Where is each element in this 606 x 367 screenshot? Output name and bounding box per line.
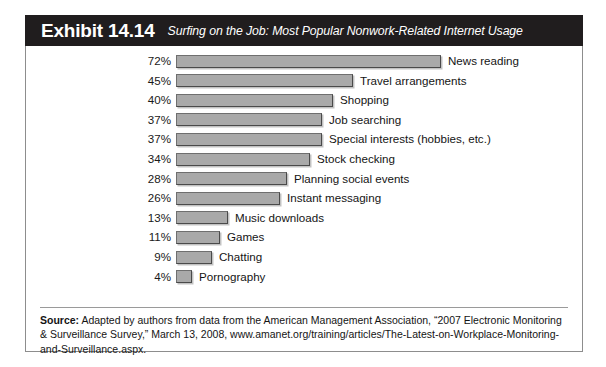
chart-row: 72%News reading — [26, 53, 582, 69]
bar-category-label: Special interests (hobbies, etc.) — [329, 131, 491, 147]
source-label: Source: — [40, 314, 79, 326]
bar — [176, 192, 280, 205]
chart-row: 34%Stock checking — [26, 151, 582, 167]
bar-category-label: Shopping — [340, 92, 389, 108]
chart-row: 4%Pornography — [26, 269, 582, 285]
exhibit-number-label: Exhibit 14.14 — [41, 20, 155, 42]
chart-row: 11%Games — [26, 229, 582, 245]
bar-category-label: Job searching — [329, 112, 401, 128]
bar-category-label: Instant messaging — [287, 190, 381, 206]
bar-category-label: Pornography — [199, 269, 265, 285]
bar — [176, 211, 228, 224]
bar-value-label: 9% — [86, 249, 171, 265]
bar-category-label: News reading — [448, 53, 519, 69]
chart-row: 37%Special interests (hobbies, etc.) — [26, 131, 582, 147]
bar-category-label: Stock checking — [317, 151, 395, 167]
bar-value-label: 40% — [86, 92, 171, 108]
bar-value-label: 34% — [86, 151, 171, 167]
bar — [176, 55, 441, 68]
chart-row: 40%Shopping — [26, 92, 582, 108]
chart-row: 13%Music downloads — [26, 210, 582, 226]
bar-value-label: 13% — [86, 210, 171, 226]
bar-value-label: 72% — [86, 53, 171, 69]
bar — [176, 153, 310, 166]
bar-value-label: 28% — [86, 171, 171, 187]
bar — [176, 113, 322, 126]
bar-chart: 72%News reading45%Travel arrangements40%… — [26, 47, 582, 300]
bar — [176, 231, 220, 244]
chart-row: 26%Instant messaging — [26, 190, 582, 206]
bar-category-label: Planning social events — [294, 171, 409, 187]
bar-category-label: Chatting — [219, 249, 262, 265]
exhibit-subtitle: Surfing on the Job: Most Popular Nonwork… — [168, 24, 523, 38]
exhibit-figure: Exhibit 14.14 Surfing on the Job: Most P… — [25, 15, 583, 352]
bar-value-label: 4% — [86, 269, 171, 285]
exhibit-banner: Exhibit 14.14 Surfing on the Job: Most P… — [25, 15, 583, 46]
bar-category-label: Games — [227, 229, 264, 245]
bar-category-label: Music downloads — [235, 210, 324, 226]
bar — [176, 94, 333, 107]
bar — [176, 270, 192, 283]
bar-value-label: 37% — [86, 112, 171, 128]
source-note: Source: Adapted by authors from data fro… — [40, 313, 568, 356]
source-text: Adapted by authors from data from the Am… — [40, 314, 562, 355]
bar-category-label: Travel arrangements — [360, 73, 467, 89]
chart-row: 9%Chatting — [26, 249, 582, 265]
bar — [176, 172, 287, 185]
bar-value-label: 26% — [86, 190, 171, 206]
bar — [176, 133, 322, 146]
bar-value-label: 37% — [86, 131, 171, 147]
chart-row: 28%Planning social events — [26, 171, 582, 187]
chart-row: 37%Job searching — [26, 112, 582, 128]
chart-row: 45%Travel arrangements — [26, 73, 582, 89]
bar — [176, 251, 212, 264]
bar — [176, 74, 353, 87]
bar-value-label: 45% — [86, 73, 171, 89]
bar-value-label: 11% — [86, 229, 171, 245]
source-divider — [40, 307, 568, 308]
